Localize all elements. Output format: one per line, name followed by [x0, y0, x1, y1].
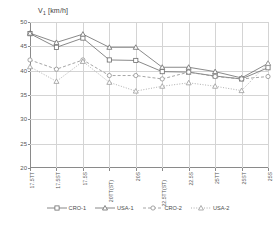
data-point-marker-circle-open [107, 73, 111, 77]
y-tick-label: 25 [20, 141, 27, 147]
x-tick-label: 22.5S [189, 172, 194, 186]
x-tick-label: 17.5S [83, 172, 88, 186]
legend-swatch-usa-2 [191, 204, 211, 212]
data-point-marker-triangle-open [28, 64, 33, 69]
x-tick-mark [215, 168, 216, 171]
data-point-marker-triangle-open [266, 61, 271, 66]
series-cro-2 [28, 58, 270, 81]
legend-label: CRO-2 [165, 205, 182, 211]
y-tick-label: 35 [20, 92, 27, 98]
x-tick-label: 22.5TT(ST) [162, 180, 167, 207]
x-tick-mark [83, 168, 84, 171]
data-point-marker-circle-open [187, 70, 191, 74]
data-point-marker-circle-open [160, 77, 164, 81]
x-tick-mark [242, 168, 243, 171]
legend-swatch-cro-1 [47, 204, 67, 212]
series-cro-1 [28, 32, 270, 81]
legend-swatch-usa-1 [95, 204, 115, 212]
data-point-marker-triangle-open [80, 32, 85, 37]
legend-label: USA-1 [117, 205, 133, 211]
legend-item-cro-1[interactable]: CRO-1 [47, 204, 86, 212]
data-point-marker-triangle-open [54, 79, 59, 84]
y-tick-label: 45 [20, 43, 27, 49]
series-usa-1 [28, 31, 271, 80]
y-axis-title-unit: [km/h] [46, 7, 68, 14]
x-tick-mark [136, 168, 137, 171]
data-point-marker-circle-open [28, 58, 32, 62]
x-tick-mark [189, 168, 190, 171]
data-point-marker-circle-open [239, 77, 243, 81]
x-tick-label: 25S [268, 172, 273, 181]
data-point-marker-square-open [107, 58, 111, 62]
x-tick-mark [109, 168, 110, 171]
data-point-marker-circle-open [134, 73, 138, 77]
y-axis-title: V1 [km/h] [38, 7, 68, 16]
y-tick-label: 40 [20, 68, 27, 74]
data-point-marker-square-open [54, 45, 58, 49]
data-point-marker-square-open [81, 36, 85, 40]
data-point-marker-circle-open [54, 67, 58, 71]
x-tick-label: 17.5TT [30, 172, 35, 188]
data-point-marker-circle-open [150, 206, 154, 210]
data-point-marker-square-open [266, 66, 270, 70]
x-tick-label: 20TT(ST) [109, 180, 114, 202]
x-tick-mark [268, 168, 269, 171]
data-point-marker-circle-open [266, 74, 270, 78]
x-tick-mark [30, 168, 31, 171]
chart-container: V1 [km/h] 20253035404550 17.5TT17.5ST17.… [0, 0, 276, 226]
data-point-marker-square-open [55, 206, 59, 210]
x-tick-label: 25ST [242, 172, 247, 184]
data-point-marker-circle-open [213, 74, 217, 78]
data-point-marker-triangle-open [186, 80, 191, 85]
legend-label: USA-2 [213, 205, 229, 211]
x-tick-mark [56, 168, 57, 171]
data-point-marker-square-open [134, 58, 138, 62]
x-tick-mark [162, 168, 163, 171]
series-line [30, 34, 268, 79]
y-tick-label: 50 [20, 19, 27, 25]
legend-item-usa-1[interactable]: USA-1 [95, 204, 133, 212]
legend-label: CRO-1 [69, 205, 86, 211]
x-tick-label: 25TT [215, 172, 220, 184]
x-axis-ticks: 17.5TT17.5ST17.5S20TT(ST)20S22.5TT(ST)22… [30, 170, 268, 204]
data-point-marker-square-open [160, 70, 164, 74]
chart-legend: CRO-1USA-1CRO-2USA-2 [0, 204, 276, 212]
legend-swatch-cro-2 [143, 204, 163, 212]
y-tick-label: 20 [20, 165, 27, 171]
gridline-vertical [268, 22, 269, 168]
y-tick-label: 30 [20, 116, 27, 122]
x-tick-label: 17.5ST [56, 172, 61, 189]
series-line [30, 33, 268, 78]
x-tick-label: 20S [136, 172, 141, 181]
plot-area: 20253035404550 [30, 22, 268, 168]
series-layer [30, 22, 268, 168]
legend-item-usa-2[interactable]: USA-2 [191, 204, 229, 212]
legend-item-cro-2[interactable]: CRO-2 [143, 204, 182, 212]
